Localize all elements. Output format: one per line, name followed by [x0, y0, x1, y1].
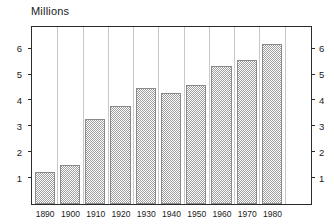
y-tick-left	[28, 177, 32, 178]
x-axis-label: 1900	[61, 209, 80, 219]
gridline	[209, 27, 210, 204]
bar	[35, 172, 55, 204]
bar	[262, 44, 282, 204]
gridline	[57, 27, 58, 204]
bar	[161, 93, 181, 204]
y-axis-label-left: 1	[0, 172, 22, 183]
gridline	[184, 27, 185, 204]
plot-inner	[32, 27, 311, 204]
y-axis-label-left: 3	[0, 120, 22, 131]
x-axis-label: 1920	[111, 209, 130, 219]
x-axis-label: 1940	[162, 209, 181, 219]
y-tick-left	[28, 125, 32, 126]
y-tick-right	[311, 125, 315, 126]
y-axis-label-right: 1	[319, 172, 334, 183]
y-tick-right	[311, 48, 315, 49]
plot-area	[31, 26, 312, 205]
gridline	[158, 27, 159, 204]
x-axis-label: 1980	[263, 209, 282, 219]
bar	[211, 66, 231, 204]
x-axis-label: 1930	[137, 209, 156, 219]
bar	[110, 106, 130, 204]
y-axis-label-left: 5	[0, 69, 22, 80]
y-tick-right	[311, 99, 315, 100]
y-axis-label-left: 4	[0, 94, 22, 105]
bar-chart: Millions 1234561234561890190019101920193…	[0, 0, 334, 224]
y-axis-label-right: 2	[319, 146, 334, 157]
x-axis-label: 1890	[36, 209, 55, 219]
y-axis-label-right: 4	[319, 94, 334, 105]
bar	[85, 119, 105, 204]
x-axis-label: 1970	[238, 209, 257, 219]
y-axis-label-right: 5	[319, 69, 334, 80]
bar	[237, 60, 257, 204]
x-axis-label: 1910	[86, 209, 105, 219]
y-axis-label-right: 3	[319, 120, 334, 131]
y-tick-right	[311, 177, 315, 178]
chart-title: Millions	[31, 5, 69, 17]
y-tick-left	[28, 74, 32, 75]
y-tick-left	[28, 99, 32, 100]
y-tick-right	[311, 151, 315, 152]
bar	[186, 85, 206, 204]
y-axis-label-left: 6	[0, 43, 22, 54]
x-axis-label: 1950	[187, 209, 206, 219]
y-axis-label-left: 2	[0, 146, 22, 157]
y-axis-label-right: 6	[319, 43, 334, 54]
y-tick-left	[28, 151, 32, 152]
y-tick-right	[311, 74, 315, 75]
gridline	[285, 27, 286, 204]
gridline	[133, 27, 134, 204]
bar	[60, 165, 80, 204]
gridline	[83, 27, 84, 204]
y-tick-left	[28, 48, 32, 49]
x-axis-label: 1960	[213, 209, 232, 219]
bar	[136, 88, 156, 204]
gridline	[234, 27, 235, 204]
gridline	[108, 27, 109, 204]
gridline	[259, 27, 260, 204]
